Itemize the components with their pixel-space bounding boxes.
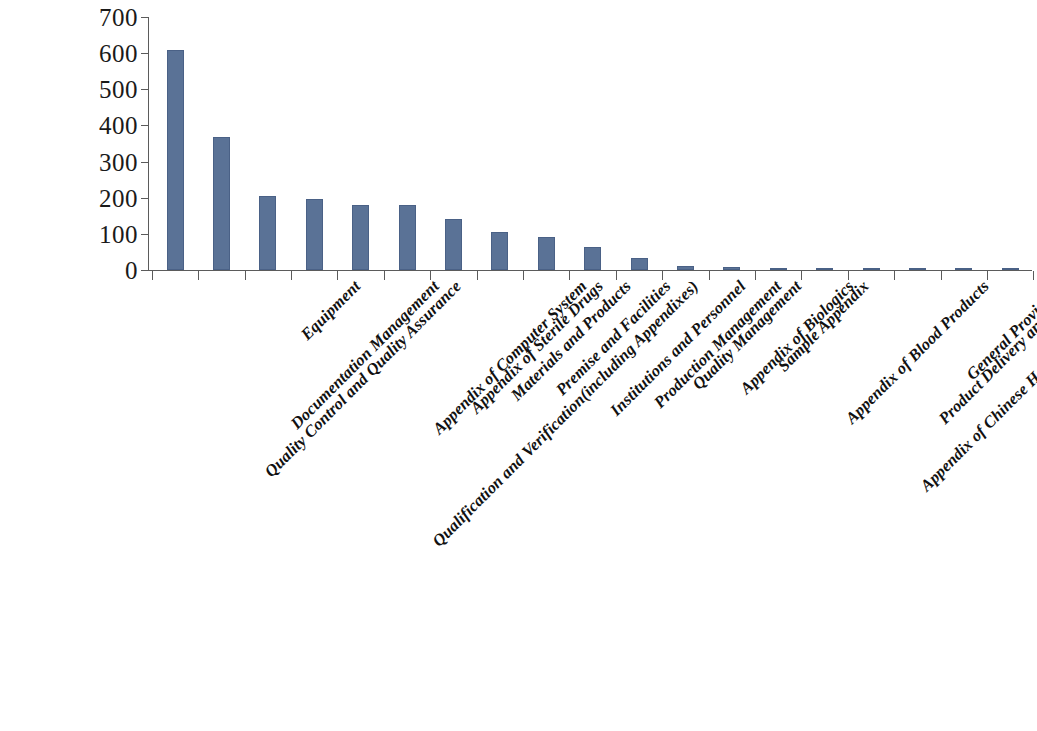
y-tick-label: 0 — [125, 258, 138, 283]
x-tick-mark — [894, 271, 895, 280]
bar — [213, 137, 230, 270]
x-tick-mark — [848, 271, 849, 280]
x-axis-label: Quality Control and Quality Assurance — [262, 278, 465, 481]
bar — [1002, 268, 1019, 270]
bar-chart: 0100200300400500600700 Quality Control a… — [0, 0, 1037, 731]
bar — [631, 258, 648, 270]
y-tick-label: 100 — [99, 221, 138, 246]
bar — [909, 268, 926, 270]
bar — [352, 205, 369, 270]
bar — [259, 196, 276, 270]
y-tick-mark — [141, 17, 148, 18]
x-tick-mark — [198, 271, 199, 280]
x-tick-mark — [1033, 271, 1034, 280]
x-tick-mark — [987, 271, 988, 280]
y-tick-label: 400 — [99, 113, 138, 138]
x-tick-mark — [755, 271, 756, 280]
x-axis-label: Documentation Management — [288, 278, 442, 432]
bar — [445, 219, 462, 270]
y-tick-mark — [141, 162, 148, 163]
bar — [399, 205, 416, 270]
bar — [584, 247, 601, 270]
bar — [770, 268, 787, 270]
bar — [816, 268, 833, 270]
bar — [863, 268, 880, 270]
y-tick-label: 300 — [99, 149, 138, 174]
y-tick-label: 700 — [99, 5, 138, 30]
x-tick-mark — [523, 271, 524, 280]
x-axis-spine — [148, 270, 1032, 271]
x-tick-mark — [941, 271, 942, 280]
y-tick-mark — [141, 125, 148, 126]
y-tick-mark — [141, 53, 148, 54]
x-tick-mark — [616, 271, 617, 280]
y-tick-label: 600 — [99, 41, 138, 66]
y-tick-label: 500 — [99, 77, 138, 102]
bar — [723, 267, 740, 270]
x-tick-mark — [245, 271, 246, 280]
y-tick-mark — [141, 234, 148, 235]
x-tick-mark — [337, 271, 338, 280]
y-tick-mark — [141, 89, 148, 90]
bar — [955, 268, 972, 270]
bar — [167, 50, 184, 270]
bar — [491, 232, 508, 270]
x-tick-mark — [291, 271, 292, 280]
x-tick-mark — [709, 271, 710, 280]
bar — [306, 199, 323, 270]
x-tick-mark — [384, 271, 385, 280]
x-tick-mark — [801, 271, 802, 280]
x-tick-mark — [569, 271, 570, 280]
x-tick-mark — [152, 271, 153, 280]
bar — [538, 237, 555, 270]
y-tick-mark — [141, 270, 148, 271]
y-tick-mark — [141, 198, 148, 199]
x-tick-mark — [477, 271, 478, 280]
y-tick-label: 200 — [99, 185, 138, 210]
plot-area — [148, 17, 1030, 270]
bar — [677, 266, 694, 270]
x-axis-label: Equipment — [298, 278, 363, 343]
